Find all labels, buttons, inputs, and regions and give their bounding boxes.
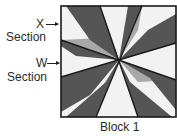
block-caption: Block 1 bbox=[100, 120, 139, 134]
x-arrow-icon bbox=[46, 24, 58, 25]
w-label-letter: W bbox=[36, 57, 47, 70]
x-section-label: Section bbox=[6, 31, 46, 44]
w-arrow-icon bbox=[47, 63, 59, 64]
w-section-label: Section bbox=[7, 71, 47, 84]
